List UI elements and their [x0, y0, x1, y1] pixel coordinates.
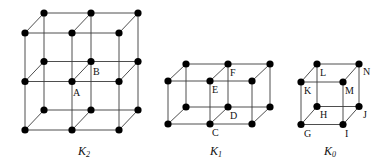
edge	[301, 64, 317, 82]
edge	[343, 107, 359, 125]
vertex	[87, 58, 94, 65]
edge	[72, 13, 91, 33]
complex-k0: GHIJKLMNK0	[297, 60, 370, 159]
vertex-label: L	[320, 67, 326, 78]
vertices	[164, 60, 273, 127]
vertex-label: N	[363, 66, 370, 77]
complex-k1: CDEFK1	[164, 60, 273, 159]
vertex	[134, 9, 141, 16]
vertex	[182, 60, 189, 67]
vertex	[21, 78, 28, 85]
vertex	[87, 106, 94, 113]
vertex	[164, 77, 171, 84]
vertex-label: A	[73, 87, 81, 98]
vertex-label: J	[363, 109, 367, 120]
vertex	[68, 126, 75, 133]
vertex	[266, 103, 273, 110]
vertex	[134, 106, 141, 113]
edge	[301, 107, 317, 125]
complex-k2: ABK2	[21, 9, 141, 159]
vertex	[355, 60, 362, 67]
complex-caption: K2	[77, 144, 90, 159]
edge	[168, 107, 186, 124]
vertex	[40, 106, 47, 113]
edge	[72, 62, 91, 82]
edges	[168, 64, 270, 124]
edge	[72, 110, 91, 130]
vertex	[40, 9, 47, 16]
vertex	[134, 58, 141, 65]
vertex-label: D	[230, 110, 237, 121]
vertex	[115, 126, 122, 133]
vertex	[40, 58, 47, 65]
cubical-complexes-figure: ABK2 CDEFK1 GHIJKLMNK0	[0, 0, 385, 166]
edge	[25, 110, 44, 130]
vertex-label: E	[212, 84, 218, 95]
vertex-label: F	[230, 67, 236, 78]
edge	[119, 62, 138, 82]
vertex	[266, 60, 273, 67]
vertex	[248, 77, 255, 84]
complex-caption: K0	[323, 144, 336, 159]
edge	[25, 13, 44, 33]
vertex	[68, 78, 75, 85]
edge	[168, 64, 186, 81]
vertex-label: G	[304, 128, 311, 139]
vertex	[115, 29, 122, 36]
edge	[252, 107, 270, 124]
vertex	[248, 120, 255, 127]
edge	[25, 62, 44, 82]
vertex-label: B	[93, 66, 100, 77]
complex-caption: K1	[209, 144, 222, 159]
vertex	[355, 103, 362, 110]
edge	[210, 64, 228, 81]
vertex-label: C	[212, 127, 219, 138]
vertex	[164, 120, 171, 127]
edge	[210, 107, 228, 124]
vertex	[68, 29, 75, 36]
vertex	[21, 126, 28, 133]
vertex	[21, 29, 28, 36]
vertex-label: I	[345, 128, 348, 139]
vertex-label: M	[345, 85, 354, 96]
vertex	[115, 78, 122, 85]
vertex	[182, 103, 189, 110]
edge	[343, 64, 359, 82]
edge	[119, 13, 138, 33]
edge	[119, 110, 138, 130]
vertex	[87, 9, 94, 16]
vertex-label: H	[320, 109, 327, 120]
edge	[252, 64, 270, 81]
vertex-label: K	[304, 85, 312, 96]
